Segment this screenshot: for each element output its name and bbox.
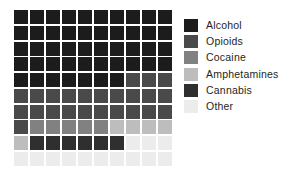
waffle-cell [62,42,76,56]
waffle-cell [78,26,92,40]
waffle-cell [110,42,124,56]
waffle-cell [62,89,76,103]
legend-item-cannabis[interactable]: Cannabis [184,84,288,98]
waffle-cell [62,73,76,87]
waffle-cell [110,10,124,24]
waffle-cell [126,105,140,119]
waffle-cell [142,120,156,134]
waffle-cell [126,42,140,56]
waffle-cell [46,26,60,40]
waffle-cell [110,57,124,71]
legend-swatch-icon [184,100,198,113]
waffle-cell [78,120,92,134]
legend-item-alcohol[interactable]: Alcohol [184,18,288,32]
waffle-cell [158,152,172,166]
waffle-cell [62,152,76,166]
waffle-cell [158,42,172,56]
waffle-cell [14,42,28,56]
waffle-cell [46,42,60,56]
waffle-cell [158,89,172,103]
legend-item-other[interactable]: Other [184,100,288,114]
waffle-cell [142,10,156,24]
legend-item-label: Alcohol [206,19,242,32]
waffle-cell [30,105,44,119]
waffle-grid [14,10,172,166]
waffle-cell [14,105,28,119]
waffle-cell [142,26,156,40]
waffle-cell [30,136,44,150]
waffle-cell [30,89,44,103]
waffle-cell [46,73,60,87]
waffle-cell [14,120,28,134]
waffle-cell [62,120,76,134]
waffle-cell [110,105,124,119]
legend-item-label: Cannabis [206,84,252,97]
waffle-cell [14,152,28,166]
waffle-cell [46,136,60,150]
waffle-cell [94,73,108,87]
legend-item-label: Cocaine [206,51,246,64]
waffle-cell [46,57,60,71]
waffle-cell [78,105,92,119]
waffle-cell [14,10,28,24]
waffle-cell [126,10,140,24]
legend-swatch-icon [184,68,198,81]
waffle-cell [14,73,28,87]
legend-item-label: Opioids [206,35,243,48]
waffle-cell [78,89,92,103]
legend-item-opioids[interactable]: Opioids [184,34,288,48]
waffle-cell [142,89,156,103]
waffle-cell [142,42,156,56]
waffle-cell [46,120,60,134]
waffle-cell [14,89,28,103]
waffle-cell [158,105,172,119]
waffle-cell [46,152,60,166]
waffle-cell [62,10,76,24]
waffle-cell [14,57,28,71]
legend-swatch-icon [184,51,198,64]
waffle-cell [30,42,44,56]
waffle-cell [30,120,44,134]
legend-swatch-icon [184,19,198,32]
legend-item-label: Other [206,100,233,113]
waffle-cell [78,152,92,166]
waffle-cell [78,42,92,56]
waffle-chart-figure: AlcoholOpioidsCocaineAmphetaminesCannabi… [0,0,291,175]
waffle-cell [62,136,76,150]
waffle-cell [46,10,60,24]
waffle-cell [78,136,92,150]
legend-item-label: Amphetamines [206,68,279,81]
waffle-cell [30,26,44,40]
waffle-cell [94,120,108,134]
waffle-cell [94,26,108,40]
waffle-cell [142,73,156,87]
waffle-cell [30,152,44,166]
waffle-cell [158,73,172,87]
waffle-cell [46,105,60,119]
waffle-cell [126,26,140,40]
waffle-cell [94,10,108,24]
waffle-cell [126,120,140,134]
waffle-cell [14,26,28,40]
waffle-cell [62,57,76,71]
waffle-cell [110,152,124,166]
waffle-cell [110,73,124,87]
waffle-cell [46,89,60,103]
waffle-cell [14,136,28,150]
waffle-cell [94,57,108,71]
legend-item-amphetamines[interactable]: Amphetamines [184,67,288,81]
legend-swatch-icon [184,35,198,48]
waffle-cell [126,152,140,166]
waffle-cell [62,105,76,119]
waffle-cell [78,57,92,71]
waffle-cell [158,26,172,40]
waffle-cell [94,136,108,150]
waffle-cell [78,10,92,24]
waffle-cell [126,73,140,87]
waffle-cell [142,152,156,166]
waffle-cell [94,89,108,103]
waffle-cell [110,89,124,103]
legend-item-cocaine[interactable]: Cocaine [184,51,288,65]
waffle-cell [110,26,124,40]
waffle-cell [126,136,140,150]
